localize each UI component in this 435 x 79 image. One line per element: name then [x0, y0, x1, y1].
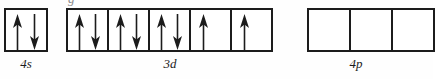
orbital-box-3d-3[interactable]: [189, 8, 232, 52]
orbital-box-3d-0[interactable]: [66, 8, 109, 52]
orbital-box-3d-1[interactable]: [107, 8, 150, 52]
electron-arrow-down: [89, 14, 102, 50]
orbital-group-3d: [66, 8, 273, 52]
subshell-label-4s: 4s: [0, 56, 56, 72]
orbital-box-3d-2[interactable]: [148, 8, 191, 52]
electron-arrow-up: [197, 14, 210, 50]
electron-arrow-up: [114, 14, 127, 50]
orbital-box-4p-2[interactable]: [391, 8, 435, 52]
electron-arrow-up: [155, 14, 168, 50]
orbital-box-4p-0[interactable]: [307, 8, 351, 52]
orbital-group-4p: [307, 8, 435, 52]
cropped-glyph-artifact: g: [68, 0, 75, 7]
subshell-label-3d: 3d: [140, 56, 200, 72]
electron-arrow-down: [171, 14, 184, 50]
electron-arrow-up: [11, 14, 24, 50]
electron-arrow-up: [73, 14, 86, 50]
orbital-box-4s-0[interactable]: [4, 8, 48, 52]
electron-arrow-down: [28, 14, 41, 50]
orbital-box-3d-4[interactable]: [230, 8, 273, 52]
electron-arrow-up: [238, 14, 251, 50]
orbital-group-4s: [4, 8, 48, 52]
electron-arrow-down: [130, 14, 143, 50]
orbital-box-4p-1[interactable]: [349, 8, 393, 52]
subshell-label-4p: 4p: [326, 56, 386, 72]
